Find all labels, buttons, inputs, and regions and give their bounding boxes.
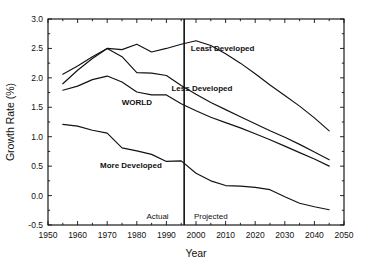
- x-tick-label: 2010: [216, 230, 235, 240]
- y-tick-label: 0.0: [31, 191, 43, 201]
- y-tick-label: 3.0: [31, 14, 43, 24]
- x-axis-tick-labels: 1950196019701980199020002010202020302040…: [39, 230, 354, 240]
- y-axis-tick-labels: -0.50.00.51.01.52.02.53.0: [28, 14, 43, 230]
- x-axis-title: Year: [185, 247, 207, 259]
- x-tick-label: 2000: [187, 230, 206, 240]
- x-tick-label: 2040: [305, 230, 324, 240]
- y-tick-label: 2.5: [31, 43, 43, 53]
- period-annotations: ActualProjected: [146, 212, 227, 221]
- x-tick-label: 1980: [127, 230, 146, 240]
- y-tick-label: -0.5: [28, 220, 43, 230]
- y-tick-label: 1.0: [31, 132, 43, 142]
- y-axis-title: Growth Rate (%): [4, 83, 16, 161]
- x-tick-label: 2030: [275, 230, 294, 240]
- series-curves: [63, 41, 329, 210]
- x-tick-label: 1990: [157, 230, 176, 240]
- y-tick-label: 0.5: [31, 161, 43, 171]
- x-tick-label: 2020: [246, 230, 265, 240]
- y-tick-label: 1.5: [31, 102, 43, 112]
- y-tick-label: 2.0: [31, 73, 43, 83]
- actual-label: Actual: [146, 212, 168, 221]
- series-label-world: WORLD: [122, 98, 152, 107]
- x-tick-label: 1960: [68, 230, 87, 240]
- chart-canvas: -0.50.00.51.01.52.02.53.0 19501960197019…: [0, 0, 368, 276]
- series-label-least-developed: Least Developed: [191, 44, 255, 53]
- series-label-more-developed: More Developed: [100, 161, 162, 170]
- x-tick-label: 1970: [98, 230, 117, 240]
- x-tick-label: 2050: [335, 230, 354, 240]
- series-line-less-developed: [63, 48, 329, 159]
- x-tick-label: 1950: [39, 230, 58, 240]
- growth-rate-chart: -0.50.00.51.01.52.02.53.0 19501960197019…: [0, 0, 368, 276]
- series-label-less-developed: Less Developed: [171, 84, 232, 93]
- projected-label: Projected: [194, 212, 228, 221]
- series-inline-labels: Least DevelopedLess DevelopedWORLDMore D…: [100, 44, 255, 170]
